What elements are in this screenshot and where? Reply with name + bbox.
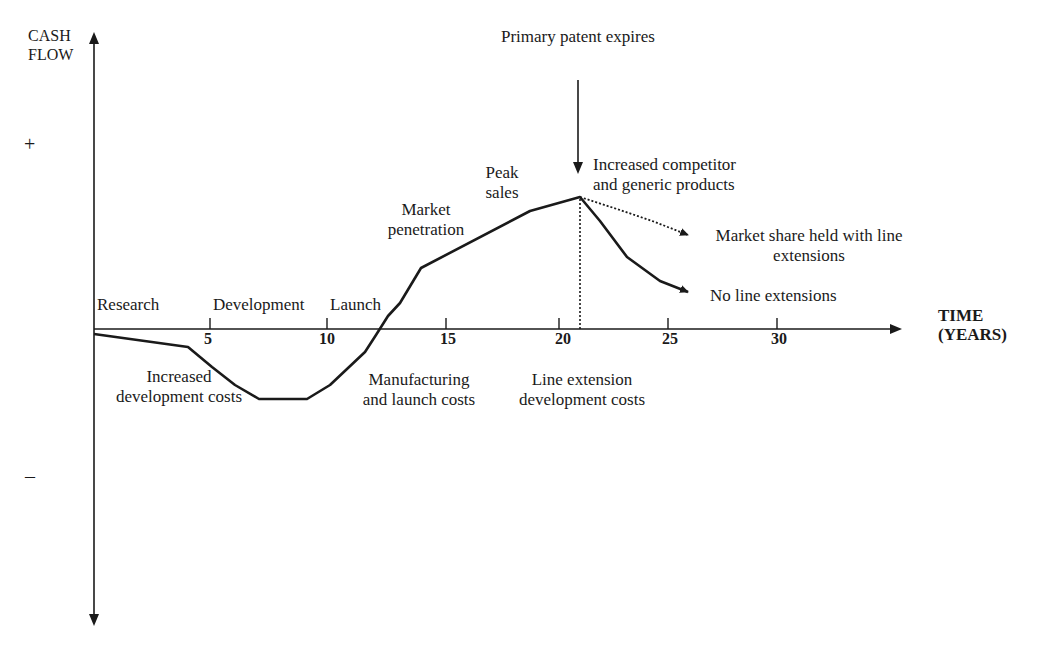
manufacturing-launch-costs-label: Manufacturing and launch costs bbox=[350, 370, 488, 410]
x-axis-arrow-icon bbox=[890, 324, 902, 334]
increased-development-costs-label: Increased development costs bbox=[97, 367, 261, 407]
y-axis-title: CASH FLOW bbox=[28, 26, 73, 64]
market-share-held-label: Market share held with line extensions bbox=[700, 226, 918, 266]
y-axis-title-line2: FLOW bbox=[28, 45, 73, 64]
tick-label-10: 10 bbox=[319, 330, 335, 348]
line-extension-costs-label: Line extension development costs bbox=[508, 370, 656, 410]
y-axis-title-line1: CASH bbox=[28, 26, 73, 45]
down-arrow-icon bbox=[573, 162, 583, 174]
competitor-label: Increased competitor and generic product… bbox=[593, 155, 736, 195]
phase-development-label: Development bbox=[213, 295, 305, 315]
x-axis-title-line1: TIME bbox=[938, 306, 1007, 325]
market-penetration-label: Market penetration bbox=[386, 200, 466, 240]
patent-expires-label: Primary patent expires bbox=[501, 27, 655, 47]
tick-label-20: 20 bbox=[555, 330, 571, 348]
tick-label-25: 25 bbox=[662, 330, 678, 348]
tick-label-5: 5 bbox=[204, 330, 212, 348]
x-axis-title: TIME (YEARS) bbox=[938, 306, 1007, 344]
plus-sign: + bbox=[24, 133, 35, 156]
tick-label-30: 30 bbox=[771, 330, 787, 348]
phase-launch-label: Launch bbox=[330, 295, 381, 315]
peak-sales-label: Peak sales bbox=[480, 163, 524, 203]
chart-canvas bbox=[0, 0, 1044, 646]
x-axis-title-line2: (YEARS) bbox=[938, 325, 1007, 344]
minus-sign: – bbox=[25, 465, 35, 488]
patent-arrow bbox=[573, 80, 583, 174]
y-axis-down-arrow-icon bbox=[89, 614, 99, 626]
phase-research-label: Research bbox=[97, 295, 159, 315]
no-line-extensions-label: No line extensions bbox=[710, 286, 837, 306]
y-axis-up-arrow-icon bbox=[89, 32, 99, 44]
tick-label-15: 15 bbox=[440, 330, 456, 348]
